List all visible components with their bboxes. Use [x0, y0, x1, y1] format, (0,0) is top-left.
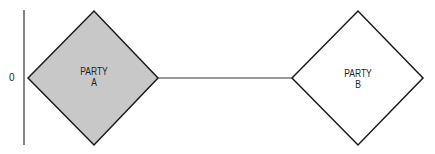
party-b-label: PARTY B [341, 68, 375, 90]
party-a-label: PARTY A [77, 66, 111, 88]
party-b-line1: PARTY [341, 68, 375, 79]
axis-zero-label: 0 [9, 72, 15, 83]
party-a-line1: PARTY [77, 66, 111, 77]
party-b-line2: B [341, 79, 375, 90]
party-a-line2: A [77, 77, 111, 88]
